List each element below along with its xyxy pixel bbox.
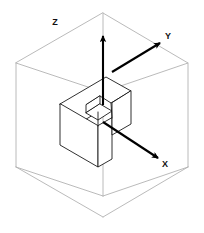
x-axis-label: X (162, 159, 168, 169)
y-axis-label: Y (165, 31, 171, 41)
isometric-canvas: Z Y X (0, 0, 204, 233)
isometric-diagram: Z Y X (0, 0, 204, 233)
cube-bottom-face (16, 167, 188, 217)
y-axis-arrow (112, 43, 160, 72)
z-axis-label: Z (52, 17, 58, 27)
notched-block (60, 77, 131, 167)
